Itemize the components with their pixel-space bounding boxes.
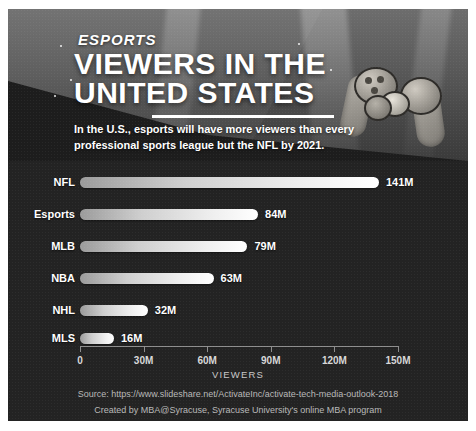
bar-category-label: MLS xyxy=(8,331,75,345)
subtitle-block: In the U.S., esports will have more view… xyxy=(74,122,404,154)
bar-nfl xyxy=(80,177,379,188)
x-axis-title: VIEWERS xyxy=(8,369,468,380)
bar-value-label: 79M xyxy=(254,239,275,253)
controller-dot xyxy=(365,77,372,84)
x-axis-tick xyxy=(144,346,145,352)
bar-value-label: 141M xyxy=(386,175,414,189)
bar-nhl xyxy=(80,305,148,316)
x-axis-tick-label: 60M xyxy=(187,355,227,366)
bar-esports xyxy=(80,209,258,220)
x-axis-tick-label: 150M xyxy=(378,355,418,366)
bar-value-label: 32M xyxy=(155,303,176,317)
bar-category-label: Esports xyxy=(8,207,75,221)
x-axis-line xyxy=(80,346,398,347)
x-axis-tick xyxy=(207,346,208,352)
x-axis-tick xyxy=(398,346,399,352)
x-axis-tick xyxy=(271,346,272,352)
title-divider xyxy=(152,115,334,118)
bar-value-label: 84M xyxy=(265,207,286,221)
credit-text: Created by MBA@Syracuse, Syracuse Univer… xyxy=(8,403,468,419)
bar-value-label: 16M xyxy=(121,331,142,345)
controller-stick xyxy=(364,95,392,121)
x-axis-tick-label: 30M xyxy=(124,355,164,366)
x-axis-tick xyxy=(80,346,81,352)
page-title-line-1: VIEWERS IN THE xyxy=(74,49,326,78)
bar-category-label: NFL xyxy=(8,175,75,189)
bar-mls xyxy=(80,333,114,344)
x-axis-tick-label: 90M xyxy=(251,355,291,366)
bar-category-label: NHL xyxy=(8,303,75,317)
star-dot-icon xyxy=(60,45,62,47)
star-dot-icon xyxy=(54,95,56,97)
bar-nba xyxy=(80,273,214,284)
bar-chart: NFL 141M Esports 84M MLB 79M NBA 63M NHL… xyxy=(8,161,468,361)
eyebrow-label: ESPORTS xyxy=(78,31,326,48)
header-text-block: ESPORTS VIEWERS IN THE UNITED STATES xyxy=(74,31,326,108)
page-title-line-2: UNITED STATES xyxy=(74,78,326,107)
subtitle-line-1: In the U.S., esports will have more view… xyxy=(74,122,404,138)
subtitle-line-2: professional sports league but the NFL b… xyxy=(74,138,404,154)
bar-value-label: 63M xyxy=(221,271,242,285)
star-dot-icon xyxy=(70,79,72,81)
star-dot-icon xyxy=(330,69,332,71)
x-axis-tick xyxy=(334,346,335,352)
source-text: Source: https://www.slideshare.net/Activ… xyxy=(8,387,468,403)
bar-mlb xyxy=(80,241,247,252)
footer-block: Source: https://www.slideshare.net/Activ… xyxy=(8,387,468,419)
infographic-poster: ESPORTS VIEWERS IN THE UNITED STATES In … xyxy=(8,9,468,421)
controller-dot xyxy=(371,87,378,94)
x-axis-tick-label: 120M xyxy=(314,355,354,366)
controller-dot xyxy=(377,76,384,83)
x-axis-tick-label: 0 xyxy=(60,355,100,366)
bar-category-label: NBA xyxy=(8,271,75,285)
bar-category-label: MLB xyxy=(8,239,75,253)
